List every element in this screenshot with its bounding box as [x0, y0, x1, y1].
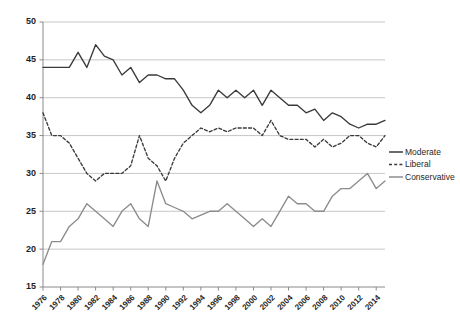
legend-label-moderate: Moderate — [405, 147, 441, 157]
x-tick-label-1994: 1994 — [188, 293, 207, 312]
x-tick-label-1992: 1992 — [170, 293, 189, 312]
x-tick-label-1990: 1990 — [153, 293, 172, 312]
x-tick-label-2000: 2000 — [240, 293, 259, 312]
x-tick-label-1982: 1982 — [83, 293, 102, 312]
y-tick-label-50: 50 — [26, 16, 36, 26]
x-tick-label-2010: 2010 — [328, 293, 347, 312]
x-tick-label-1976: 1976 — [30, 293, 49, 312]
y-tick-label-20: 20 — [26, 244, 36, 254]
chart-legend: ModerateLiberalConservative — [389, 147, 455, 182]
x-tick-label-1988: 1988 — [135, 293, 154, 312]
y-tick-label-35: 35 — [26, 130, 36, 140]
x-tick-label-1998: 1998 — [223, 293, 242, 312]
y-tick-label-45: 45 — [26, 54, 36, 64]
x-tick-label-1980: 1980 — [65, 293, 84, 312]
x-tick-label-2002: 2002 — [258, 293, 277, 312]
x-tick-label-1986: 1986 — [118, 293, 137, 312]
legend-label-liberal: Liberal — [405, 159, 431, 169]
x-axis: 1976197819801982198419861988199019921994… — [30, 287, 383, 312]
x-tick-label-2004: 2004 — [276, 293, 295, 312]
line-chart: 1520253035404550 19761978198019821984198… — [0, 0, 460, 326]
series-line-liberal — [43, 113, 385, 181]
legend-label-conservative: Conservative — [405, 172, 455, 182]
y-tick-label-25: 25 — [26, 206, 36, 216]
series-line-conservative — [43, 173, 385, 264]
x-tick-label-2008: 2008 — [311, 293, 330, 312]
chart-canvas: 1520253035404550 19761978198019821984198… — [0, 0, 460, 326]
series-line-moderate — [43, 45, 385, 128]
x-tick-label-2006: 2006 — [293, 293, 312, 312]
y-tick-label-40: 40 — [26, 92, 36, 102]
x-tick-label-2014: 2014 — [363, 293, 382, 312]
x-tick-label-1978: 1978 — [48, 293, 67, 312]
grid-lines — [43, 22, 385, 287]
series-lines — [43, 45, 385, 265]
x-tick-label-2012: 2012 — [346, 293, 365, 312]
x-tick-label-1984: 1984 — [100, 293, 119, 312]
x-tick-label-1996: 1996 — [205, 293, 224, 312]
y-tick-label-15: 15 — [26, 281, 36, 291]
y-axis: 1520253035404550 — [26, 16, 43, 291]
y-tick-label-30: 30 — [26, 168, 36, 178]
